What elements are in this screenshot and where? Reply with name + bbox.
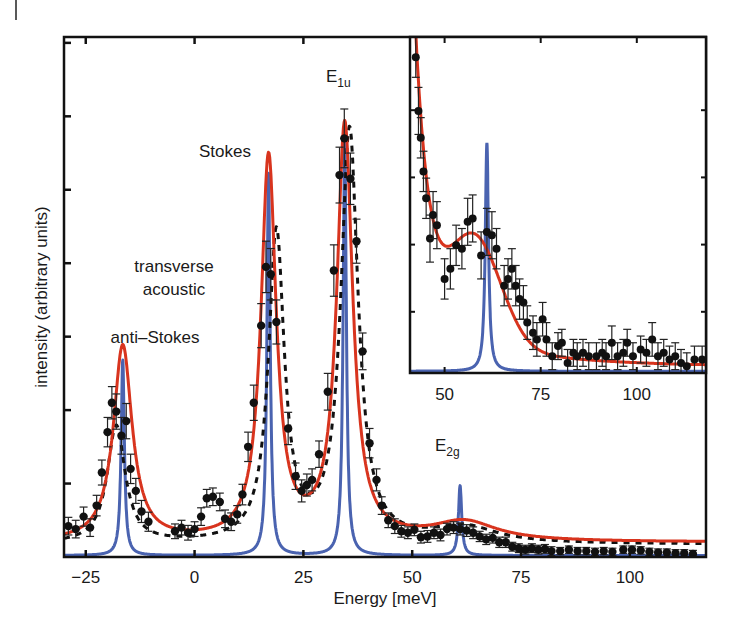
data-point — [291, 463, 299, 489]
annotation-e1u: E1u — [326, 67, 351, 90]
inset-x-tick-label: 100 — [623, 385, 651, 404]
x-tick-label: −25 — [71, 568, 100, 587]
x-tick-label: 25 — [294, 568, 313, 587]
inset-background — [410, 37, 706, 373]
annotation-acoustic: acoustic — [143, 280, 206, 299]
data-point — [573, 547, 581, 555]
data-point — [645, 548, 653, 556]
data-point — [582, 547, 590, 555]
e1u-letter: E — [326, 67, 337, 86]
data-point — [637, 546, 645, 554]
data-point — [619, 545, 627, 553]
inset-x-tick-label: 75 — [531, 385, 550, 404]
annotation-anti-stokes: anti–Stokes — [111, 328, 200, 347]
inset-x-tick-labels: 5075100 — [435, 385, 651, 404]
data-point — [352, 219, 360, 263]
x-tick-label: 0 — [190, 568, 199, 587]
x-axis-label: Energy [meV] — [334, 589, 437, 608]
phonon-spectrum-chart: −250255075100 5075100 Energy [meV] inten… — [0, 0, 735, 636]
data-point — [654, 548, 662, 556]
annotation-e2g: E2g — [435, 436, 460, 459]
e2g-letter: E — [435, 436, 446, 455]
data-point — [365, 428, 373, 457]
annotation-transverse: transverse — [134, 257, 213, 276]
data-point — [132, 478, 140, 503]
data-point — [565, 545, 573, 553]
data-point — [126, 454, 134, 483]
e2g-subscript: 2g — [446, 445, 459, 459]
inset-plot — [410, 0, 706, 380]
e1u-subscript: 1u — [337, 76, 350, 90]
y-axis-label: intensity (arbitrary units) — [32, 206, 51, 387]
x-tick-label: 50 — [403, 568, 422, 587]
x-tick-label: 75 — [512, 568, 531, 587]
annotation-stokes: Stokes — [199, 142, 251, 161]
data-point — [556, 547, 564, 555]
data-point — [608, 548, 616, 556]
data-point — [197, 508, 205, 526]
data-point — [663, 548, 671, 556]
x-tick-label: 100 — [616, 568, 644, 587]
data-point — [600, 547, 608, 555]
data-point — [591, 548, 599, 556]
data-point — [272, 300, 280, 344]
main-x-tick-labels: −250255075100 — [71, 568, 644, 587]
inset-x-tick-label: 50 — [435, 385, 454, 404]
